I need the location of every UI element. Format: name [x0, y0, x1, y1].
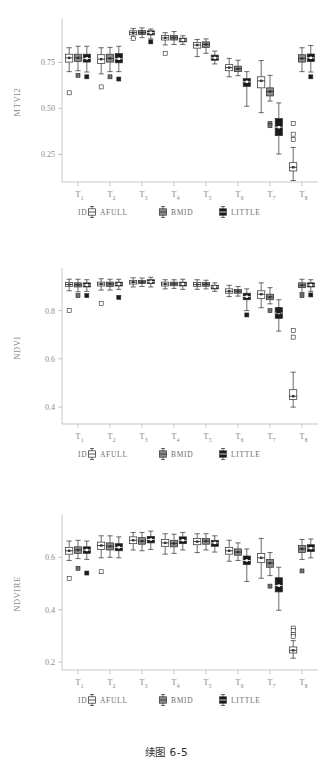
x-tick-label: T — [268, 678, 273, 687]
y-tick-label: 0.8 — [45, 307, 55, 316]
box-little-T2 — [115, 46, 122, 81]
x-tick-label: T — [300, 190, 305, 199]
box-bmid-T4 — [170, 32, 177, 45]
x-tick-subscript: 8 — [305, 195, 308, 201]
legend-item-little[interactable]: LITTLE — [220, 695, 261, 706]
legend-item-little[interactable]: LITTLE — [220, 449, 261, 460]
y-axis-label: NDVI — [12, 336, 22, 360]
box-bmid-T5 — [202, 280, 209, 289]
box-little-T8 — [307, 46, 314, 79]
boxplot-svg-ndvire: 0.20.40.6NDVIRET1T2T3T4T5T6T7T8IDAFULLBM… — [0, 508, 333, 748]
x-tick-subscript: 5 — [209, 195, 212, 201]
x-tick-label: T — [300, 432, 305, 441]
legend-label: BMID — [171, 696, 193, 705]
legend-item-bmid[interactable]: BMID — [160, 695, 194, 706]
x-tick-label: T — [172, 678, 177, 687]
box-afull-T8 — [290, 328, 297, 407]
legend-label: LITTLE — [231, 208, 261, 217]
y-tick-label: 0.6 — [45, 553, 55, 562]
box-little-T8 — [307, 539, 314, 558]
x-tick-subscript: 6 — [241, 437, 244, 443]
y-tick-label: 0.25 — [41, 150, 55, 159]
box-little-T5 — [211, 536, 218, 552]
box-afull-T2 — [98, 48, 105, 89]
boxplot-svg-mtvi2: 0.250.500.75MTVI2T1T2T3T4T5T6T7T8IDAFULL… — [0, 4, 333, 260]
plot-area-ndvi: 0.40.60.8NDVIT1T2T3T4T5T6T7T8IDAFULLBMID… — [0, 262, 333, 502]
box-bmid-T3 — [138, 532, 145, 550]
box-bmid-T8 — [298, 539, 305, 572]
x-tick-subscript: 4 — [177, 437, 180, 443]
x-tick-subscript: 7 — [273, 437, 276, 443]
legend-item-bmid[interactable]: BMID — [160, 449, 194, 460]
plot-area-ndvire: 0.20.40.6NDVIRET1T2T3T4T5T6T7T8IDAFULLBM… — [0, 508, 333, 748]
box-little-T8 — [307, 280, 314, 297]
legend-item-bmid[interactable]: BMID — [160, 207, 194, 218]
box-bmid-T8 — [298, 48, 305, 72]
x-tick-label: T — [268, 432, 273, 441]
box-bmid-T6 — [234, 60, 241, 75]
legend-label: LITTLE — [231, 450, 261, 459]
y-tick-label: 0.2 — [45, 658, 55, 667]
x-tick-subscript: 5 — [209, 437, 212, 443]
box-bmid-T2 — [106, 279, 113, 290]
chart-panel-ndvire: 0.20.40.6NDVIRET1T2T3T4T5T6T7T8IDAFULLBM… — [0, 508, 333, 748]
x-tick-subscript: 3 — [145, 195, 148, 201]
box-afull-T3 — [130, 28, 137, 40]
x-tick-subscript: 3 — [145, 683, 148, 689]
legend-label: LITTLE — [231, 696, 261, 705]
box-afull-T4 — [162, 280, 169, 289]
box-little-T1 — [83, 46, 90, 79]
box-little-T7 — [275, 300, 282, 331]
box-afull-T3 — [130, 278, 137, 287]
x-tick-subscript: 7 — [273, 195, 276, 201]
box-bmid-T4 — [170, 534, 177, 553]
x-tick-subscript: 3 — [145, 437, 148, 443]
legend-item-little[interactable]: LITTLE — [220, 207, 261, 218]
box-bmid-T4 — [170, 280, 177, 289]
box-bmid-T6 — [234, 286, 241, 296]
x-tick-subscript: 6 — [241, 195, 244, 201]
legend-label: BMID — [171, 450, 193, 459]
x-tick-subscript: 1 — [81, 683, 84, 689]
box-little-T1 — [83, 280, 90, 298]
x-tick-subscript: 4 — [177, 195, 180, 201]
box-afull-T2 — [98, 536, 105, 574]
box-bmid-T3 — [138, 278, 145, 286]
box-bmid-T2 — [106, 47, 113, 78]
box-afull-T8 — [290, 626, 297, 658]
box-little-T5 — [211, 283, 218, 291]
box-afull-T3 — [130, 532, 137, 550]
box-bmid-T2 — [106, 536, 113, 557]
x-tick-subscript: 8 — [305, 437, 308, 443]
x-tick-label: T — [140, 190, 145, 199]
x-tick-label: T — [236, 678, 241, 687]
box-little-T2 — [115, 279, 122, 299]
x-tick-label: T — [204, 432, 209, 441]
x-tick-label: T — [236, 190, 241, 199]
box-little-T3 — [147, 531, 154, 549]
box-afull-T8 — [290, 122, 297, 181]
box-bmid-T5 — [202, 39, 209, 53]
legend-item-afull[interactable]: AFULL — [89, 695, 128, 706]
box-little-T4 — [179, 36, 186, 45]
x-tick-subscript: 5 — [209, 683, 212, 689]
x-tick-subscript: 1 — [81, 195, 84, 201]
box-little-T4 — [179, 279, 186, 289]
legend-title: ID — [78, 450, 87, 459]
legend-item-afull[interactable]: AFULL — [89, 449, 128, 460]
legend-title: ID — [78, 696, 87, 705]
x-tick-label: T — [140, 432, 145, 441]
x-tick-subscript: 1 — [81, 437, 84, 443]
y-axis-label: NDVIRE — [12, 576, 22, 612]
box-afull-T2 — [98, 279, 105, 306]
x-tick-label: T — [76, 190, 81, 199]
y-tick-label: 0.50 — [41, 104, 55, 113]
x-tick-label: T — [204, 190, 209, 199]
boxplot-svg-ndvi: 0.40.60.8NDVIT1T2T3T4T5T6T7T8IDAFULLBMID… — [0, 262, 333, 502]
legend-item-afull[interactable]: AFULL — [89, 207, 128, 218]
x-tick-label: T — [268, 190, 273, 199]
box-little-T3 — [147, 277, 154, 287]
box-afull-T1 — [66, 279, 73, 312]
box-bmid-T7 — [266, 553, 273, 589]
legend-label: AFULL — [100, 208, 128, 217]
